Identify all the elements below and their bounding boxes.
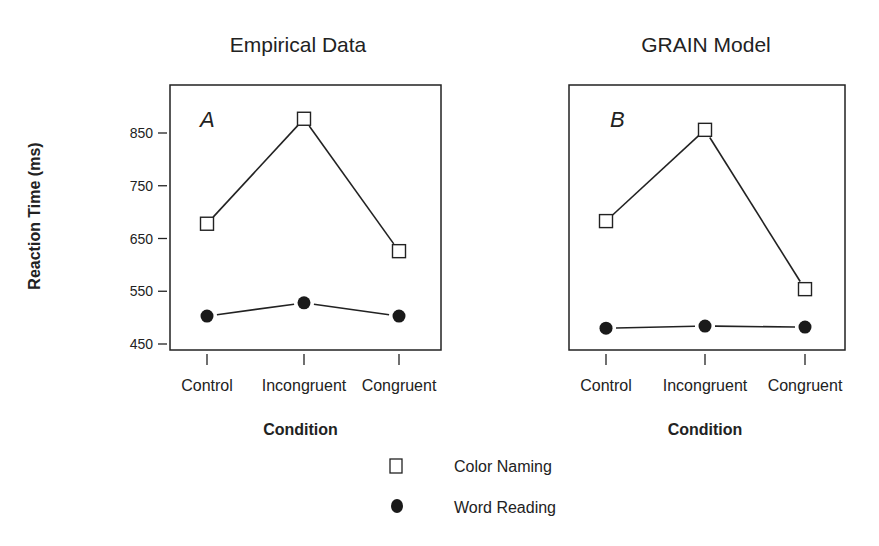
color-naming-marker (799, 283, 812, 296)
open-square-icon (390, 459, 402, 473)
x-axis-label: Condition (668, 421, 743, 438)
panel-a: Empirical DataA450550650750850ControlInc… (130, 33, 441, 438)
y-tick-label: 650 (130, 231, 154, 247)
series-line (213, 125, 298, 217)
word-reading-marker (201, 310, 214, 323)
legend: Color NamingWord Reading (390, 458, 556, 516)
y-tick-label: 450 (130, 336, 154, 352)
series-line (715, 326, 795, 327)
panel-letter: B (610, 107, 625, 132)
color-naming-marker (298, 112, 311, 125)
series-line (217, 304, 294, 314)
word-reading-marker (298, 296, 311, 309)
x-tick-label: Control (181, 377, 233, 394)
series-line (616, 326, 695, 328)
series-line (710, 137, 800, 281)
panel-letter: A (198, 107, 215, 132)
panel-title: GRAIN Model (641, 33, 771, 56)
color-naming-marker (699, 123, 712, 136)
series-line (613, 136, 699, 215)
x-tick-label: Incongruent (262, 377, 347, 394)
word-reading-marker (799, 321, 812, 334)
word-reading-marker (699, 320, 712, 333)
x-tick-label: Incongruent (663, 377, 748, 394)
y-tick-label: 850 (130, 125, 154, 141)
color-naming-marker (393, 245, 406, 258)
filled-circle-icon (391, 499, 403, 513)
x-axis-label: Condition (263, 421, 338, 438)
x-tick-label: Congruent (768, 377, 843, 394)
color-naming-marker (201, 217, 214, 230)
panel-title: Empirical Data (230, 33, 367, 56)
word-reading-marker (393, 310, 406, 323)
panel-b: GRAIN ModelBControlIncongruentCongruentC… (569, 33, 845, 438)
y-tick-label: 750 (130, 178, 154, 194)
series-line (309, 126, 394, 244)
color-naming-marker (600, 215, 613, 228)
y-axis-label: Reaction Time (ms) (26, 142, 43, 289)
legend-label: Word Reading (454, 499, 556, 516)
word-reading-marker (600, 322, 613, 335)
series-line (314, 304, 389, 314)
y-tick-label: 550 (130, 283, 154, 299)
legend-label: Color Naming (454, 458, 552, 475)
x-tick-label: Control (580, 377, 632, 394)
x-tick-label: Congruent (362, 377, 437, 394)
chart-figure: Reaction Time (ms)Empirical DataA4505506… (0, 0, 879, 546)
